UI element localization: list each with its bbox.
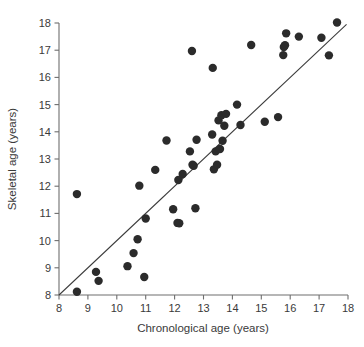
x-axis-ticks [59,295,348,300]
x-tick-label-12: 12 [168,302,180,314]
data-point-group [73,18,342,296]
data-point [191,204,199,212]
data-point [218,137,226,145]
data-point [274,113,282,121]
data-point [178,170,186,178]
data-point [216,145,224,153]
x-tick-label-8: 8 [56,302,62,314]
data-point [140,273,148,281]
y-tick-label-11: 11 [40,207,51,219]
data-point [188,47,196,55]
data-point [261,118,269,126]
data-point [325,51,333,59]
x-tick-label-17: 17 [313,302,325,314]
data-point [73,190,81,198]
y-axis-title: Skeletal age (years) [6,108,18,210]
x-tick-label-10: 10 [111,302,123,314]
x-tick-label-11: 11 [140,302,151,314]
data-point [279,51,287,59]
data-point [220,122,228,130]
data-point [186,147,194,155]
y-tick-label-8: 8 [45,289,51,301]
x-axis: 89101112131415161718 [56,295,354,314]
data-point [175,219,183,227]
x-tick-label-16: 16 [284,302,296,314]
y-tick-label-10: 10 [39,235,51,247]
y-tick-label-15: 15 [39,99,51,111]
x-tick-label-13: 13 [197,302,209,314]
data-point [169,205,177,213]
data-point [135,181,143,189]
data-point [222,110,230,118]
y-axis: 89101112131415161718 [39,17,59,301]
data-point [209,64,217,72]
x-tick-label-15: 15 [255,302,267,314]
x-tick-label-14: 14 [226,302,238,314]
data-point [317,33,325,41]
data-point [129,249,137,257]
x-tick-label-9: 9 [85,302,91,314]
data-point [123,262,131,270]
y-axis-ticks [55,23,60,295]
data-point [281,41,289,49]
data-point [213,161,221,169]
y-tick-label-12: 12 [39,180,51,192]
data-point [233,100,241,108]
data-point [133,235,141,243]
x-tick-label-18: 18 [342,302,354,314]
data-point [73,288,81,296]
y-tick-label-13: 13 [39,153,51,165]
y-tick-label-9: 9 [45,262,51,274]
data-point [151,166,159,174]
y-tick-label-14: 14 [39,126,51,138]
data-point [142,214,150,222]
y-axis-tick-labels: 89101112131415161718 [39,17,51,301]
y-tick-label-17: 17 [39,44,51,56]
x-axis-tick-labels: 89101112131415161718 [56,302,354,314]
x-axis-title: Chronological age (years) [137,322,269,334]
data-point [247,41,255,49]
data-point [208,130,216,138]
data-point [295,32,303,40]
data-point [92,268,100,276]
reference-fit-line [59,24,347,295]
data-point [162,136,170,144]
data-point [236,121,244,129]
data-point [282,29,290,37]
data-point [94,277,102,285]
data-point [189,162,197,170]
plot-canvas: 89101112131415161718 8910111213141516171… [0,0,364,347]
data-point [192,135,200,143]
y-tick-label-16: 16 [39,71,51,83]
y-tick-label-18: 18 [39,17,51,29]
scatter-plot-figure: 89101112131415161718 8910111213141516171… [0,0,364,347]
data-point [333,18,341,26]
